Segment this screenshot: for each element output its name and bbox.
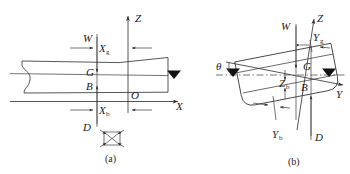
heel-angle-label-b: θ bbox=[216, 60, 222, 72]
panel-b: θ Z Y W D G B bbox=[216, 12, 346, 168]
section-hatch-symbol-a bbox=[100, 130, 124, 147]
panel-a: Z X O W D G B X g bbox=[10, 12, 184, 165]
waterline-marker-right-b bbox=[322, 69, 336, 78]
force-label-d-a: D bbox=[82, 121, 91, 133]
point-label-b-b: B bbox=[301, 81, 308, 93]
axis-z-b bbox=[297, 19, 314, 130]
point-label-b-a: B bbox=[86, 80, 93, 92]
figure-container: Z X O W D G B X g bbox=[0, 0, 350, 174]
ship-stability-diagram: Z X O W D G B X g bbox=[0, 0, 350, 174]
dimension-sub-zb-b: b bbox=[286, 83, 290, 91]
dimension-sub-xb-a: b bbox=[106, 110, 110, 118]
dimension-sub-yb-b: b bbox=[279, 134, 283, 142]
point-label-g-a: G bbox=[86, 66, 94, 78]
force-label-d-b: D bbox=[314, 131, 323, 143]
force-label-w-b: W bbox=[281, 20, 291, 32]
waterline-marker bbox=[167, 71, 181, 80]
point-label-o-a: O bbox=[131, 89, 139, 101]
dimension-label-zb-b: Z bbox=[279, 77, 286, 89]
point-label-g-b: G bbox=[303, 60, 311, 72]
panel-caption-a: (a) bbox=[105, 153, 116, 165]
axis-label-z-b: Z bbox=[317, 12, 324, 24]
dimension-sub-yg-b: g bbox=[320, 37, 324, 45]
axis-label-z-a: Z bbox=[135, 12, 142, 24]
dimension-sub-xg-a: g bbox=[106, 48, 110, 56]
force-label-w-a: W bbox=[83, 32, 93, 44]
dimension-yb-b bbox=[253, 96, 290, 120]
axis-label-x-a: X bbox=[175, 100, 184, 112]
panel-caption-b: (b) bbox=[288, 156, 300, 168]
axis-label-y-b: Y bbox=[336, 88, 344, 100]
